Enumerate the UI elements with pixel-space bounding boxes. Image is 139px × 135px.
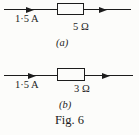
resistor-box [57,3,84,15]
current-arrow-icon [26,7,34,13]
figure-caption: Fig. 6 [0,114,139,127]
current-arrow-icon [102,73,110,79]
resistor-box [57,68,85,81]
current-label: 1·5 A [15,14,39,25]
current-label: 1·5 A [15,80,39,91]
resistance-label: 5 Ω [73,22,89,33]
current-arrow-icon [28,73,36,79]
circuit-sub-label: (a) [56,38,68,49]
figure-6: 1·5 A 5 Ω (a) 1·5 A 3 Ω (b) Fig. 6 [0,0,139,135]
circuit-sub-label: (b) [59,100,71,111]
current-arrow-icon [99,7,107,13]
resistance-label: 3 Ω [74,84,90,95]
